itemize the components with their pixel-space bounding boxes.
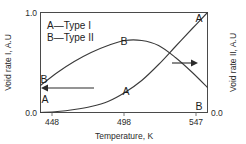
- legend: A—Type I B—Type II: [47, 20, 94, 43]
- y2-tick-label-bottom: 0.0: [211, 108, 223, 118]
- x-axis-title: Temperature, K: [95, 131, 153, 141]
- legend-entry-a: A—Type I: [47, 20, 91, 31]
- point-label-b-end: B: [195, 100, 202, 112]
- chart-canvas: 448 498 547 Temperature, K 1.0 0.0 Void …: [0, 0, 246, 144]
- legend-entry-a-dash: —: [54, 20, 64, 31]
- chart-figure: 448 498 547 Temperature, K 1.0 0.0 Void …: [0, 0, 246, 144]
- point-label-a-start: A: [41, 93, 48, 105]
- point-label-a-mid: A: [122, 85, 129, 97]
- y-axis-title: Void rate I, A.U: [3, 34, 13, 91]
- legend-entry-a-label: Type I: [64, 20, 91, 31]
- legend-entry-b: B—Type II: [47, 32, 94, 43]
- y-tick-label-bottom: 0.0: [25, 108, 37, 118]
- legend-entry-b-dash: —: [54, 32, 64, 43]
- x-tick-label-0: 448: [45, 117, 59, 127]
- legend-entry-b-label: Type II: [64, 32, 94, 43]
- y2-axis-title: Void rate II, A.U: [228, 33, 238, 92]
- point-label-b-peak: B: [120, 35, 127, 47]
- point-label-a-end: A: [195, 12, 202, 24]
- point-label-b-start: B: [40, 73, 47, 85]
- x-tick-label-1: 498: [117, 117, 131, 127]
- x-tick-label-2: 547: [189, 117, 203, 127]
- y-tick-label-top: 1.0: [25, 8, 37, 18]
